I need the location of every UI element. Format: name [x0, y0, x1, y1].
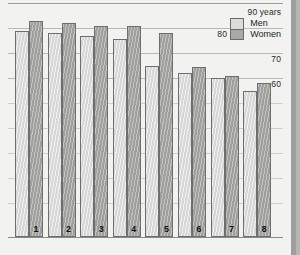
bar-men-5	[145, 66, 159, 238]
bar-women-8	[257, 83, 271, 237]
chart-screenshot: 90 years 80 70 60 Men Women 12345678	[0, 0, 300, 255]
bar-men-4	[113, 39, 127, 237]
category-label-7: 7	[225, 224, 239, 234]
category-label-4: 4	[127, 224, 141, 234]
bar-women-6	[192, 67, 206, 237]
category-label-1: 1	[29, 224, 43, 234]
bar-men-6	[178, 73, 192, 237]
bar-men-2	[48, 33, 62, 237]
bar-women-7	[225, 76, 239, 238]
bar-women-3	[94, 26, 108, 238]
category-label-6: 6	[192, 224, 206, 234]
bar-group-container: 12345678	[0, 0, 291, 255]
category-label-2: 2	[62, 224, 76, 234]
bar-men-1	[15, 31, 29, 238]
bar-men-8	[243, 91, 257, 238]
bar-women-5	[159, 33, 173, 237]
bar-women-2	[62, 23, 76, 237]
plot-area: 90 years 80 70 60 Men Women 12345678	[0, 0, 291, 255]
bar-men-7	[211, 78, 225, 237]
category-label-5: 5	[159, 224, 173, 234]
category-label-3: 3	[94, 224, 108, 234]
bar-women-4	[127, 26, 141, 238]
bar-women-1	[29, 21, 43, 238]
bar-men-3	[80, 36, 94, 238]
category-label-8: 8	[257, 224, 271, 234]
page-gutter-shadow	[291, 0, 296, 255]
